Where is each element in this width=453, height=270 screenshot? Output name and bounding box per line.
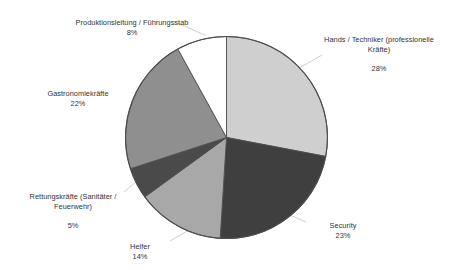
pie-slices — [125, 37, 327, 239]
slice-label-text-rettungskraefte: Rettungskräfte (Sanitäter / — [30, 192, 117, 201]
slice-label-text-security: Security — [330, 221, 357, 230]
slice-percent-helfer: 14% — [104, 252, 176, 261]
slice-percent-rettungskraefte: 5% — [2, 221, 144, 230]
slice-label-text-hands-techniker: Hands / Techniker (professionelle — [324, 35, 434, 44]
slice-label-text2-hands-techniker: Kräfte) — [305, 45, 453, 54]
slice-label-helfer: Helfer 14% — [104, 233, 176, 270]
slice-label-gastronomiekraefte: Gastronomiekräfte 22% — [14, 80, 142, 118]
slice-label-text-gastronomiekraefte: Gastronomiekräfte — [47, 89, 108, 98]
slice-percent-hands-techniker: 28% — [305, 64, 453, 73]
slice-label-produktionsleitung: Produktionsleitung / Führungsstab 8% — [48, 9, 216, 47]
slice-label-hands-techniker: Hands / Techniker (professionelle Kräfte… — [305, 26, 453, 82]
pie-chart: Produktionsleitung / Führungsstab 8% Han… — [0, 0, 453, 270]
slice-label-text-produktionsleitung: Produktionsleitung / Führungsstab — [76, 18, 189, 27]
slice-percent-gastronomiekraefte: 22% — [14, 99, 142, 108]
slice-label-security: Security 23% — [300, 212, 386, 250]
slice-label-text-helfer: Helfer — [130, 242, 150, 251]
slice-label-text2-rettungskraefte: Feuerwehr) — [2, 202, 144, 211]
slice-label-rettungskraefte: Rettungskräfte (Sanitäter / Feuerwehr) 5… — [2, 183, 144, 239]
slice-percent-produktionsleitung: 8% — [48, 28, 216, 37]
slice-percent-security: 23% — [300, 231, 386, 240]
